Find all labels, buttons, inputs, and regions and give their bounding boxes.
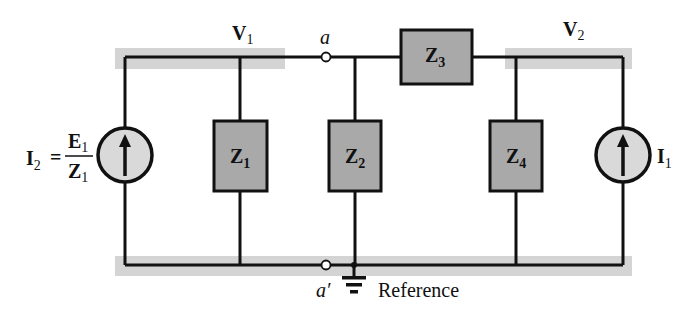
reference-label: Reference <box>378 279 459 301</box>
left-source-label: I2 = E1 Z1 <box>26 130 93 185</box>
svg-text:=: = <box>50 146 61 168</box>
right-source-label: I1 <box>657 145 672 171</box>
node-a-prime-label: a′ <box>316 279 331 301</box>
right-current-source <box>596 128 650 182</box>
v2-label: V2 <box>563 18 584 43</box>
node-a-terminal <box>322 53 331 62</box>
svg-text:Z1: Z1 <box>68 160 88 185</box>
svg-text:E1: E1 <box>68 130 88 155</box>
circuit-diagram: Z1 Z2 Z3 Z4 V1 V2 a a′ Reference I2 = E1… <box>0 0 695 313</box>
left-current-source <box>98 128 152 182</box>
node-a-label: a <box>320 26 330 48</box>
svg-text:I2: I2 <box>26 147 41 173</box>
node-a-prime-terminal <box>322 261 331 270</box>
v1-label: V1 <box>232 22 253 47</box>
